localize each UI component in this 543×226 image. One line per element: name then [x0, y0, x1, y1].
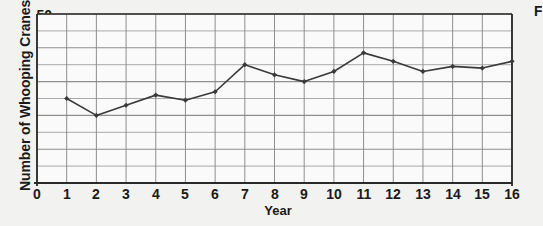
line-chart: Number of Whooping Cranes Year 50 40 30 …: [0, 0, 543, 226]
plot-area: [0, 0, 543, 226]
